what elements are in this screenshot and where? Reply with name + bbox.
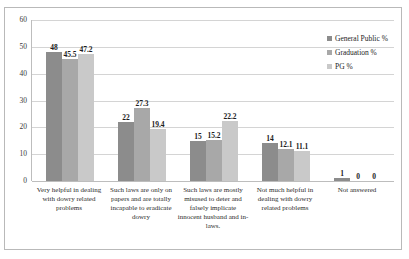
legend-swatch-icon	[327, 64, 332, 69]
bar-graduation	[206, 140, 222, 181]
bar-pg	[222, 121, 238, 181]
y-tick-label: 20	[5, 124, 27, 132]
bar-general-public	[262, 143, 278, 181]
x-tick-label: Such laws are mostly misused to deter an…	[177, 186, 249, 231]
x-tick-label: Very helpful in dealing with dowry relat…	[33, 186, 105, 213]
bar-value-label: 22	[111, 114, 141, 122]
bar-group: 14 12.1 11.1	[262, 20, 310, 181]
bar-group: 15 15.2 22.2	[190, 20, 238, 181]
legend-item-general-public[interactable]: General Public %	[327, 34, 401, 43]
legend-swatch-icon	[327, 50, 332, 55]
bar-value-label: 19.4	[143, 121, 173, 129]
bar-group: 48 45.5 47.2	[46, 20, 94, 181]
chart-container: 60 50 40 30 20 10 0 48 45.5 47.2 22	[4, 7, 402, 250]
bar-general-public	[190, 141, 206, 181]
bar-value-label: 15.2	[199, 132, 229, 140]
bar-graduation	[62, 59, 78, 181]
legend-label: PG %	[335, 62, 353, 71]
chart-legend: General Public % Graduation % PG %	[327, 34, 401, 76]
bar-general-public	[46, 52, 62, 181]
bar-general-public	[118, 122, 134, 181]
bar-value-label: 0	[359, 173, 389, 181]
bar-value-label: 47.2	[71, 46, 101, 54]
bar-pg	[150, 129, 166, 181]
bar-pg	[78, 54, 94, 181]
legend-item-pg[interactable]: PG %	[327, 62, 401, 71]
y-tick-label: 30	[5, 97, 27, 105]
y-tick-label: 10	[5, 150, 27, 158]
bar-pg	[294, 151, 310, 181]
bar-group: 22 27.3 19.4	[118, 20, 166, 181]
y-axis: 60 50 40 30 20 10 0	[5, 20, 31, 181]
y-tick-label: 40	[5, 70, 27, 78]
legend-item-graduation[interactable]: Graduation %	[327, 48, 401, 57]
bar-graduation	[278, 149, 294, 181]
bar-value-label: 27.3	[127, 100, 157, 108]
x-tick-label: Not answered	[321, 186, 393, 195]
bar-value-label: 11.1	[287, 143, 317, 151]
x-axis-line	[32, 181, 394, 182]
bar-value-label: 22.2	[215, 113, 245, 121]
x-axis: Very helpful in dealing with dowry relat…	[31, 186, 394, 244]
y-tick-label: 50	[5, 43, 27, 51]
legend-swatch-icon	[327, 36, 332, 41]
y-tick-label: 0	[5, 177, 27, 185]
x-tick-label: Not much helpful in dealing with dowry r…	[249, 186, 321, 213]
x-tick-label: Such laws are only on papers and are tot…	[105, 186, 177, 222]
legend-label: Graduation %	[335, 48, 377, 57]
y-tick-label: 60	[5, 16, 27, 24]
legend-label: General Public %	[335, 34, 388, 43]
